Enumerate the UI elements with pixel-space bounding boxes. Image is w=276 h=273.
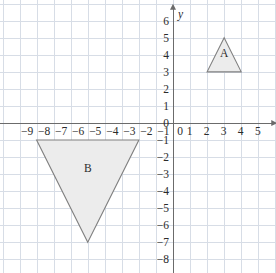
y-tick-label: 2 [163, 83, 169, 95]
y-tick-label: 1 [163, 100, 169, 112]
y-tick-label: −7 [157, 236, 169, 248]
y-tick-label: −8 [157, 253, 169, 265]
x-tick-label: −9 [21, 125, 33, 137]
y-tick-label: 6 [163, 15, 169, 27]
x-tick-label: 4 [238, 125, 244, 137]
x-tick-label: −8 [38, 125, 50, 137]
y-tick-label: 0 [163, 117, 169, 129]
x-tick-label: 1 [187, 125, 193, 137]
x-tick-label: 5 [255, 125, 261, 137]
y-tick-label: −3 [157, 168, 169, 180]
x-tick-label: 3 [221, 125, 227, 137]
x-tick-label: −2 [140, 125, 152, 137]
x-tick-label: −5 [89, 125, 101, 137]
y-axis-name: y [177, 8, 184, 21]
x-tick-label: 0 [177, 125, 183, 137]
y-tick-label: −6 [157, 219, 169, 231]
y-tick-label: −5 [157, 202, 169, 214]
plot-svg: xy AB −9−8−7−6−5−4−3−2−10123456543210−1−… [0, 0, 276, 273]
y-tick-label: −1 [157, 134, 169, 146]
x-tick-label: 2 [204, 125, 210, 137]
y-tick-label: 4 [163, 49, 169, 61]
shape-label-a: A [220, 47, 229, 59]
axis-lines: xy [0, 4, 276, 273]
x-tick-label: −7 [55, 125, 67, 137]
coordinate-plane-figure: xy AB −9−8−7−6−5−4−3−2−10123456543210−1−… [0, 0, 276, 273]
y-tick-label: −4 [157, 185, 169, 197]
x-tick-label: −6 [72, 125, 84, 137]
x-tick-label: −3 [123, 125, 135, 137]
shape-label-b: B [84, 162, 92, 174]
x-tick-label: −4 [106, 125, 118, 137]
y-tick-label: −2 [157, 151, 169, 163]
y-tick-label: 5 [163, 32, 169, 44]
y-tick-label: 3 [163, 66, 169, 78]
